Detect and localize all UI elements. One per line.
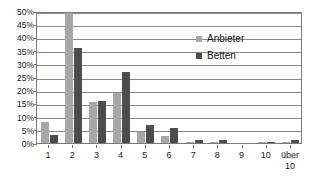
legend-swatch-icon	[196, 53, 202, 59]
bar-anbieter-6	[161, 136, 169, 143]
bar-group	[61, 13, 85, 143]
y-axis-tick-label: 40%	[0, 34, 34, 42]
bar-chart: 0%5%10%15%20%25%30%35%40%45%50% 12345678…	[0, 0, 315, 180]
bar-group	[134, 13, 158, 143]
bar-betten-4	[122, 72, 130, 143]
y-axis-tick-label: 45%	[0, 21, 34, 29]
bar-betten-8	[219, 140, 227, 143]
legend-swatch-icon	[196, 36, 202, 42]
x-axis-tick-mark	[169, 145, 170, 148]
x-axis-tick-mark	[290, 145, 291, 148]
x-axis-tick-label: 6	[157, 150, 181, 161]
bar-anbieter-2	[65, 12, 73, 143]
bar-anbieter-7	[186, 142, 194, 143]
bar-group	[158, 13, 182, 143]
x-axis-tick-label: 9	[229, 150, 253, 161]
x-axis-tick-label: 2	[60, 150, 84, 161]
bar-anbieter-5	[137, 132, 145, 143]
bar-betten-5	[146, 125, 154, 143]
y-axis-tick-label: 30%	[0, 61, 34, 69]
x-axis: 12345678910über 10	[36, 145, 302, 179]
x-axis-tick-mark	[72, 145, 73, 148]
bar-anbieter-10	[258, 142, 266, 143]
y-axis-tick-label: 5%	[0, 127, 34, 135]
y-axis-tick-label: 25%	[0, 74, 34, 82]
x-axis-tick-mark	[242, 145, 243, 148]
bar-betten-7	[195, 140, 203, 143]
bar-betten-10	[267, 142, 275, 143]
y-axis: 0%5%10%15%20%25%30%35%40%45%50%	[0, 12, 34, 144]
chart-legend: AnbieterBetten	[196, 30, 266, 64]
x-axis-tick-label: 7	[181, 150, 205, 161]
x-axis-tick-mark	[266, 145, 267, 148]
bar-anbieter-3	[89, 102, 97, 143]
x-axis-tick-label: 1	[36, 150, 60, 161]
bar-group	[85, 13, 109, 143]
x-axis-tick-mark	[96, 145, 97, 148]
legend-label: Anbieter	[207, 33, 244, 44]
bar-betten-3	[98, 101, 106, 143]
y-axis-tick-label: 0%	[0, 140, 34, 148]
x-axis-tick-label: 5	[133, 150, 157, 161]
y-axis-tick-label: 15%	[0, 100, 34, 108]
bar-group	[37, 13, 61, 143]
bar-betten-2	[74, 48, 82, 143]
bar-anbieter-8	[210, 142, 218, 143]
x-axis-tick-label: über 10	[278, 150, 302, 172]
bar-anbieter-11	[282, 142, 290, 143]
bar-betten-1	[50, 135, 58, 143]
bar-group	[110, 13, 134, 143]
x-axis-tick-label: 8	[205, 150, 229, 161]
x-axis-tick-label: 10	[254, 150, 278, 161]
x-axis-tick-mark	[121, 145, 122, 148]
x-axis-tick-mark	[145, 145, 146, 148]
y-axis-tick-label: 50%	[0, 8, 34, 16]
x-axis-tick-mark	[217, 145, 218, 148]
y-axis-tick-label: 35%	[0, 48, 34, 56]
x-axis-tick-mark	[193, 145, 194, 148]
y-axis-tick-label: 10%	[0, 114, 34, 122]
bar-anbieter-4	[113, 93, 121, 143]
x-axis-tick-label: 3	[84, 150, 108, 161]
bar-anbieter-1	[41, 122, 49, 143]
bar-group	[279, 13, 302, 143]
bar-betten-6	[170, 128, 178, 143]
x-axis-tick-mark	[48, 145, 49, 148]
legend-label: Betten	[207, 50, 236, 61]
legend-item: Betten	[196, 47, 266, 64]
bar-betten-11	[291, 140, 299, 143]
y-axis-tick-label: 20%	[0, 87, 34, 95]
x-axis-tick-label: 4	[109, 150, 133, 161]
legend-item: Anbieter	[196, 30, 266, 47]
